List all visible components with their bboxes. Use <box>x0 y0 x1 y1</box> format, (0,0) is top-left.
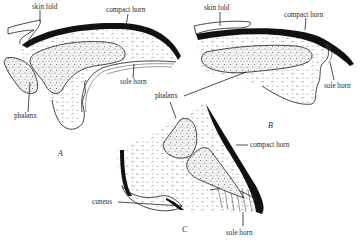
panel-label-a: A <box>57 149 63 158</box>
label-sole-horn-b: sole horn <box>324 82 351 90</box>
label-phalanx-shared: phalanx <box>155 92 178 100</box>
panel-label-b: B <box>268 121 273 130</box>
panel-c: compact horn cuneus sole horn C <box>92 102 290 237</box>
label-sole-horn-a: sole horn <box>120 78 147 86</box>
panel-label-c: C <box>182 225 188 234</box>
label-sole-horn-c: sole horn <box>226 229 253 237</box>
panel-b: skin fold compact horn sole horn B <box>194 4 354 130</box>
label-compact-horn-b: compact horn <box>284 11 324 19</box>
label-skin-fold-a: skin fold <box>32 3 58 11</box>
label-phalanx-a: phalanx <box>14 112 37 120</box>
label-cuneus-c: cuneus <box>92 198 112 206</box>
phalanx-c-upper <box>163 118 197 158</box>
label-skin-fold-b: skin fold <box>204 4 230 12</box>
label-compact-horn-a: compact horn <box>106 6 146 14</box>
claw-hoof-section-diagram: skin fold compact horn sole horn phalanx… <box>0 0 361 243</box>
label-compact-horn-c: compact horn <box>250 141 290 149</box>
